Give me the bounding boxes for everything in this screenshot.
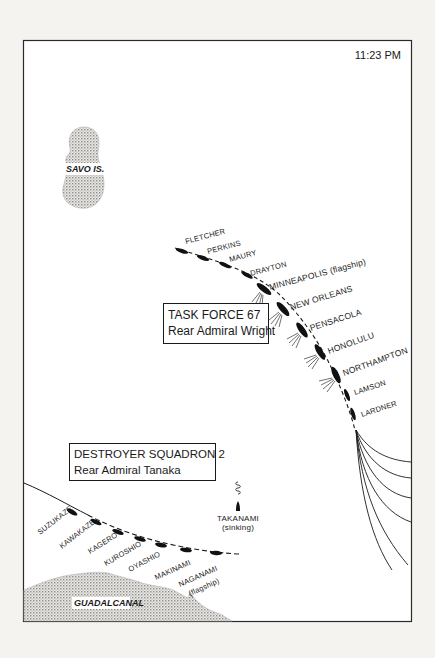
- savo-island-label: SAVO IS.: [66, 164, 104, 174]
- time-label: 11:23 PM: [355, 49, 401, 61]
- battle-map: 11:23 PM SAVO IS. GUADALCANAL FLET: [0, 0, 435, 658]
- takanami-label: TAKANAMI: [217, 514, 259, 523]
- destroyer-squadron-box: DESTROYER SQUADRON 2 Rear Admiral Tanaka: [70, 444, 225, 481]
- task-force-box: TASK FORCE 67 Rear Admiral Wright: [164, 304, 276, 344]
- destroyer-squadron-commander: Rear Admiral Tanaka: [74, 464, 181, 476]
- takanami-status: (sinking): [222, 523, 254, 532]
- guadalcanal-label: GUADALCANAL: [74, 598, 144, 608]
- task-force-commander: Rear Admiral Wright: [168, 324, 276, 338]
- task-force-title: TASK FORCE 67: [168, 308, 261, 322]
- destroyer-squadron-title: DESTROYER SQUADRON 2: [74, 448, 225, 460]
